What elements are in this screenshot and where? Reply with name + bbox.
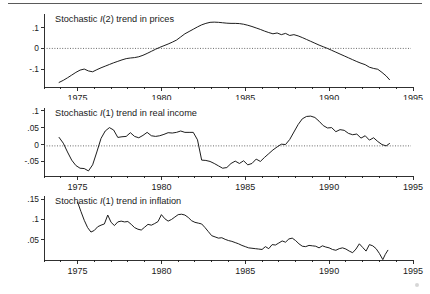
y-tick-label: .1: [32, 106, 39, 116]
chart-panel-1: -.10.119751980198519901995Stochastic I(2…: [0, 0, 430, 100]
y-tick-label: 0: [34, 43, 39, 53]
axis-spines: [44, 14, 413, 87]
y-tick-label: .1: [32, 23, 39, 33]
y-tick-label: .05: [27, 123, 39, 133]
data-series-line: [59, 22, 389, 82]
y-tick-label: -.05: [25, 156, 40, 166]
data-series-line: [59, 116, 389, 171]
x-tick-label: 1975: [68, 266, 88, 276]
x-tick-label: 1990: [319, 266, 339, 276]
panel-title: Stochastic I(1) trend in real income: [55, 108, 197, 118]
data-series-line: [78, 202, 388, 260]
x-tick-label: 1995: [403, 266, 423, 276]
panel-title: Stochastic I(2) trend in prices: [55, 14, 174, 24]
x-tick-label: 1985: [235, 266, 255, 276]
panel-title: Stochastic I(1) trend in inflation: [55, 196, 181, 206]
y-tick-label: .1: [32, 214, 39, 224]
chart-panel-2: -.050.05.119751980198519901995Stochastic…: [0, 94, 430, 190]
figure-container: -.10.119751980198519901995Stochastic I(2…: [0, 0, 430, 294]
y-tick-label: -.1: [29, 64, 39, 74]
x-tick-label: 1980: [151, 266, 171, 276]
y-tick-label: .05: [27, 235, 39, 245]
chart-panel-3: .05.1.1519751980198519901995Stochastic I…: [0, 182, 430, 282]
scan-artifact-speck: [415, 283, 419, 287]
y-tick-label: 0: [34, 140, 39, 150]
y-tick-label: .15: [27, 194, 39, 204]
